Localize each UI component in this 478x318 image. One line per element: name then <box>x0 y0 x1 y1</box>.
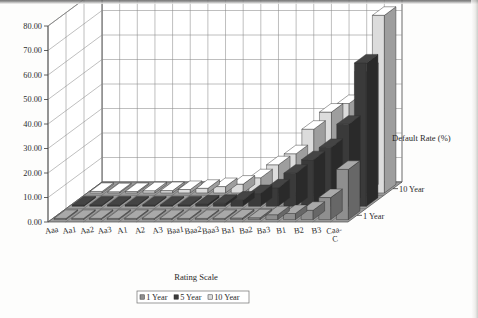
svg-text:Ba3: Ba3 <box>256 225 271 236</box>
svg-text:Ba2: Ba2 <box>239 225 254 236</box>
svg-text:0.00: 0.00 <box>27 218 42 227</box>
svg-text:20.00: 20.00 <box>23 169 42 178</box>
scan-artifact-top <box>0 0 478 4</box>
default-rate-3d-bar-chart: 0.0010.0020.0030.0040.0050.0060.0070.008… <box>0 0 478 318</box>
svg-text:30.00: 30.00 <box>23 144 42 153</box>
svg-text:Aa1: Aa1 <box>62 225 77 236</box>
svg-text:B2: B2 <box>293 225 304 235</box>
x-axis-ticks: AaaAa1Aa2Aa3A1A2A3Baa1Baa2Baa3Ba1Ba2Ba3B… <box>44 225 342 244</box>
svg-text:10 Year: 10 Year <box>399 185 425 194</box>
svg-text:A2: A2 <box>134 225 145 235</box>
svg-text:60.00: 60.00 <box>23 71 42 80</box>
svg-text:Aa2: Aa2 <box>80 225 95 236</box>
svg-text:Ba1: Ba1 <box>221 225 236 236</box>
chart-legend[interactable]: 1 Year5 Year10 Year <box>137 291 249 303</box>
svg-text:A1: A1 <box>117 225 128 235</box>
svg-text:Aa3: Aa3 <box>97 225 112 236</box>
scan-artifact-right <box>471 0 478 318</box>
y-axis-ticks: 0.0010.0020.0030.0040.0050.0060.0070.008… <box>23 22 48 227</box>
svg-text:Baa3: Baa3 <box>201 225 219 237</box>
svg-text:Baa2: Baa2 <box>184 225 202 237</box>
svg-text:B1: B1 <box>276 225 287 235</box>
svg-text:10.00: 10.00 <box>23 193 42 202</box>
svg-text:1 Year: 1 Year <box>146 293 167 302</box>
svg-text:Rating Scale: Rating Scale <box>174 272 218 282</box>
svg-text:50.00: 50.00 <box>23 95 42 104</box>
svg-text:Aaa: Aaa <box>44 225 59 236</box>
svg-text:5 Year: 5 Year <box>180 293 201 302</box>
svg-text:70.00: 70.00 <box>23 46 42 55</box>
svg-text:80.00: 80.00 <box>23 22 42 31</box>
chart-figure: 0.0010.0020.0030.0040.0050.0060.0070.008… <box>0 0 478 318</box>
svg-text:A3: A3 <box>152 225 163 235</box>
svg-text:Default Rate (%): Default Rate (%) <box>392 133 451 143</box>
svg-text:1 Year: 1 Year <box>363 212 384 221</box>
svg-text:40.00: 40.00 <box>23 120 42 129</box>
svg-text:10 Year: 10 Year <box>214 293 240 302</box>
svg-text:Baa1: Baa1 <box>166 225 184 237</box>
svg-text:C: C <box>332 234 339 244</box>
svg-text:B3: B3 <box>311 225 322 235</box>
